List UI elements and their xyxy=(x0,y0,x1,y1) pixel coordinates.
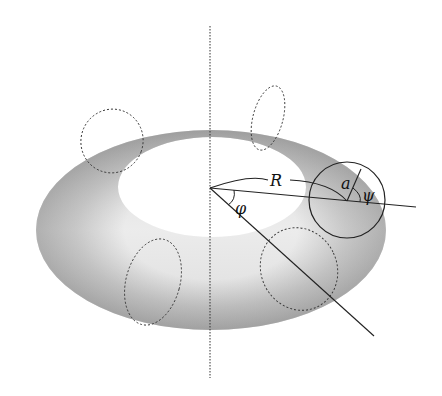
torus-diagram: R a ψ φ xyxy=(0,0,442,396)
label-psi: ψ xyxy=(362,186,375,205)
label-R: R xyxy=(269,171,282,190)
phi-angle-arc xyxy=(228,190,234,205)
label-phi: φ xyxy=(235,199,247,218)
label-a: a xyxy=(341,174,351,193)
